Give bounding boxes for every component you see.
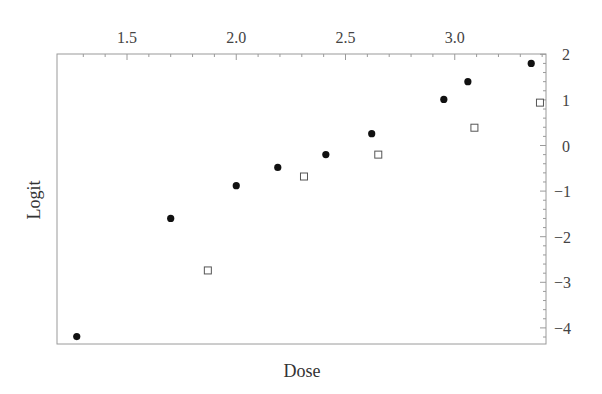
data-point bbox=[167, 215, 174, 222]
data-point bbox=[73, 333, 80, 340]
data-point bbox=[204, 267, 211, 274]
y-tick-label: 2 bbox=[562, 46, 570, 63]
y-tick-label: 0 bbox=[562, 138, 570, 155]
x-tick-label: 2.0 bbox=[226, 29, 246, 46]
data-point bbox=[233, 182, 240, 189]
y-tick-label: −3 bbox=[554, 274, 571, 291]
series-open-squares bbox=[204, 99, 543, 274]
y-tick-label: −2 bbox=[554, 229, 571, 246]
series-filled-circles bbox=[73, 60, 535, 340]
data-point bbox=[536, 99, 543, 106]
x-axis-label: Dose bbox=[284, 361, 321, 381]
y-tick-label: −4 bbox=[554, 320, 571, 337]
y-axis: 210−1−2−3−4 bbox=[540, 46, 571, 337]
data-point bbox=[322, 151, 329, 158]
scatter-chart: 1.52.02.53.0 210−1−2−3−4 Dose Logit bbox=[0, 0, 602, 394]
data-point bbox=[464, 78, 471, 85]
data-point bbox=[471, 124, 478, 131]
y-axis-label: Logit bbox=[24, 181, 44, 220]
x-tick-label: 2.5 bbox=[336, 29, 356, 46]
data-point bbox=[375, 151, 382, 158]
plot-frame bbox=[57, 54, 546, 344]
x-tick-label: 3.0 bbox=[445, 29, 465, 46]
data-point bbox=[274, 164, 281, 171]
y-tick-label: −1 bbox=[554, 183, 571, 200]
x-tick-label: 1.5 bbox=[117, 29, 137, 46]
y-tick-label: 1 bbox=[562, 92, 570, 109]
x-axis: 1.52.02.53.0 bbox=[83, 29, 542, 60]
data-point bbox=[440, 96, 447, 103]
data-point bbox=[300, 173, 307, 180]
data-point bbox=[368, 130, 375, 137]
data-point bbox=[528, 60, 535, 67]
